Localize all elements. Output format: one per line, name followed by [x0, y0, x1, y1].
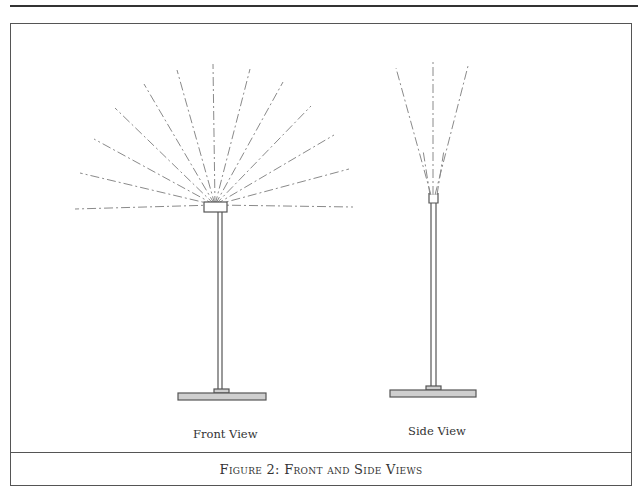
front-view-drawing [75, 64, 353, 209]
side-base-collar [426, 386, 441, 390]
front-base-collar [214, 389, 229, 393]
front-base-plate [178, 393, 266, 400]
front-nozzle-head [204, 202, 227, 212]
diagram-drawing [0, 0, 638, 495]
side-view-drawing [396, 62, 468, 195]
side-view-structure [390, 193, 476, 397]
side-base-plate [390, 390, 476, 397]
front-view-structure [178, 202, 266, 400]
front-view-label: Front View [193, 427, 258, 441]
side-view-label: Side View [408, 424, 466, 438]
